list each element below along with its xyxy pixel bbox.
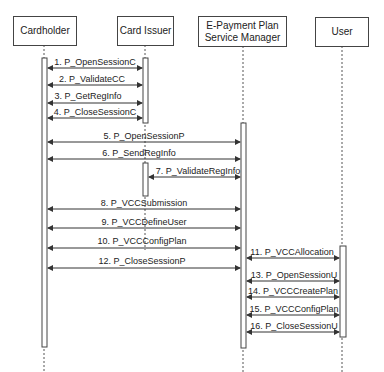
message-label: 11. P_VCCAllocation bbox=[250, 247, 333, 257]
message-label: 4. P_CloseSessionC bbox=[54, 107, 137, 117]
sequence-diagram-canvas bbox=[0, 0, 384, 372]
message-label: 13. P_OpenSessionU bbox=[251, 270, 338, 280]
message-label: 10. P_VCCConfigPlan bbox=[97, 236, 186, 246]
actor-label: Cardholder bbox=[20, 25, 69, 37]
message-label: 9. P_VCCDefineUser bbox=[101, 217, 186, 227]
actor-cardholder: Cardholder bbox=[13, 16, 77, 46]
actor-label: User bbox=[331, 26, 352, 38]
actor-label-line2: Service Manager bbox=[205, 32, 281, 44]
actor-user: User bbox=[315, 17, 369, 47]
activation-card-issuer-1 bbox=[143, 58, 148, 123]
actor-label: Card Issuer bbox=[120, 25, 172, 37]
activation-cardholder bbox=[42, 58, 47, 347]
message-label: 12. P_CloseSessionP bbox=[98, 256, 185, 266]
activation-epsm bbox=[241, 123, 246, 348]
message-label: 8. P_VCCSubmission bbox=[101, 198, 188, 208]
activation-user bbox=[340, 246, 346, 337]
activation-card-issuer-2 bbox=[143, 163, 148, 196]
actor-label-line1: E-Payment Plan bbox=[206, 20, 278, 32]
message-label: 3. P_GetRegInfo bbox=[54, 91, 121, 101]
message-label: 7. P_ValidateRegInfo bbox=[156, 166, 240, 176]
actor-card-issuer: Card Issuer bbox=[117, 16, 174, 46]
message-label: 6. P_SendRegInfo bbox=[102, 148, 176, 158]
actor-epsm: E-Payment Plan Service Manager bbox=[198, 16, 287, 47]
message-label: 5. P_OpenSessionP bbox=[103, 131, 184, 141]
message-label: 15. P_VCCConfigPlan bbox=[249, 304, 338, 314]
message-label: 1. P_OpenSessionC bbox=[54, 57, 136, 67]
message-label: 14. P_VCCCreatePlan bbox=[248, 286, 338, 296]
message-label: 16. P_CloseSessionU bbox=[250, 321, 338, 331]
message-label: 2. P_ValidateCC bbox=[59, 74, 125, 84]
